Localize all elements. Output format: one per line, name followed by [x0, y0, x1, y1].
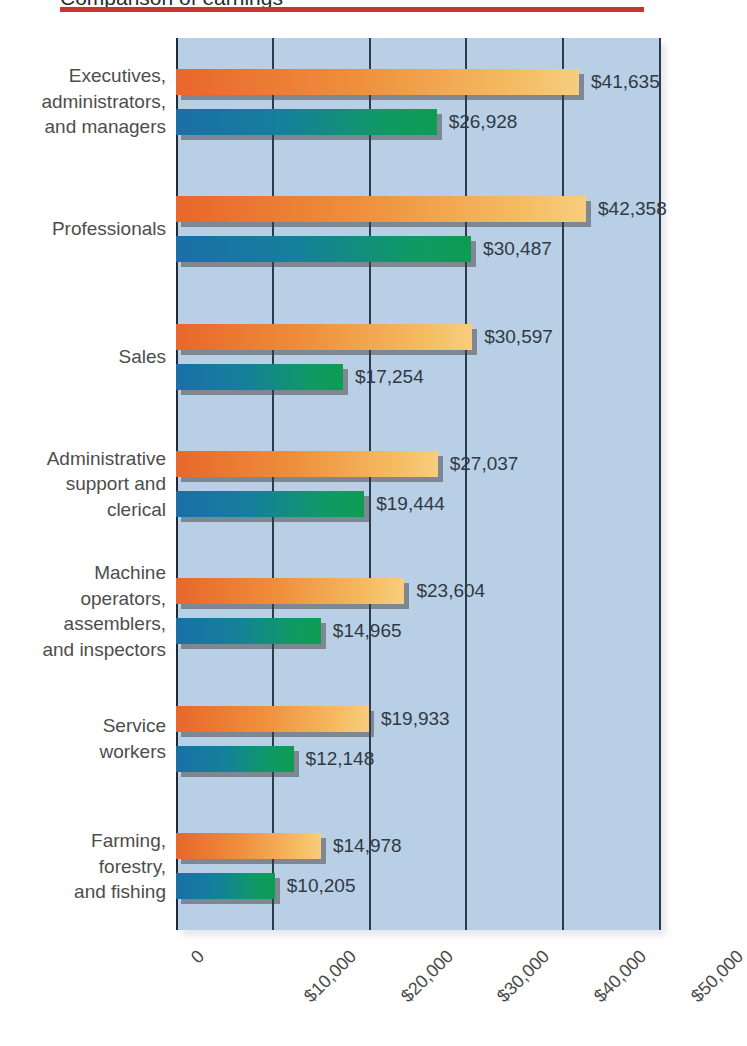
red-divider-rule [60, 7, 644, 12]
category-label: Professionals [0, 216, 166, 242]
bar-female [176, 109, 437, 135]
category-label-line: assemblers, [0, 611, 166, 637]
bar-male [176, 578, 404, 604]
chart-plot-area: $41,635$26,928$42,358$30,487$30,597$17,2… [176, 38, 660, 930]
x-tick-label: $40,000 [590, 946, 651, 1007]
bar-fill [176, 618, 321, 644]
category-label-line: and inspectors [0, 637, 166, 663]
category-label-line: and managers [0, 114, 166, 140]
category-label-line: Farming, [0, 828, 166, 854]
bar-female [176, 236, 471, 262]
bar-fill [176, 109, 437, 135]
bar-value-label: $12,148 [306, 746, 375, 772]
bar-value-label: $26,928 [449, 109, 518, 135]
bar-value-label: $30,597 [484, 324, 553, 350]
bar-male [176, 451, 438, 477]
category-label-line: forestry, [0, 854, 166, 880]
category-label-line: Professionals [0, 216, 166, 242]
bar-female [176, 746, 294, 772]
gridline [369, 38, 371, 930]
x-tick-label: $30,000 [493, 946, 554, 1007]
bar-female [176, 618, 321, 644]
category-label-line: Executives, [0, 63, 166, 89]
bar-fill [176, 364, 343, 390]
bar-fill [176, 746, 294, 772]
x-tick-label: $20,000 [397, 946, 458, 1007]
category-label-line: operators, [0, 586, 166, 612]
bar-value-label: $17,254 [355, 364, 424, 390]
bar-value-label: $23,604 [416, 578, 485, 604]
category-label: Machineoperators,assemblers,and inspecto… [0, 560, 166, 662]
bar-fill [176, 873, 275, 899]
category-label: Administrativesupport andclerical [0, 446, 166, 523]
bar-fill [176, 706, 369, 732]
category-label: Farming,forestry,and fishing [0, 828, 166, 905]
bar-value-label: $41,635 [591, 69, 660, 95]
x-tick-label: $50,000 [687, 946, 747, 1007]
gridline [659, 38, 661, 930]
bar-fill [176, 69, 579, 95]
category-label: Executives,administrators,and managers [0, 63, 166, 140]
bar-female [176, 491, 364, 517]
bar-value-label: $14,978 [333, 833, 402, 859]
category-label-line: Sales [0, 344, 166, 370]
x-tick-label: 0 [187, 946, 209, 968]
bar-value-label: $42,358 [598, 196, 667, 222]
category-label-line: Administrative [0, 446, 166, 472]
category-label-line: administrators, [0, 89, 166, 115]
bar-male [176, 324, 472, 350]
category-label-line: Service [0, 713, 166, 739]
bar-value-label: $27,037 [450, 451, 519, 477]
bar-female [176, 873, 275, 899]
bar-fill [176, 196, 586, 222]
bar-fill [176, 236, 471, 262]
x-tick-label: $10,000 [300, 946, 361, 1007]
bar-fill [176, 833, 321, 859]
category-label-line: Machine [0, 560, 166, 586]
gridline [465, 38, 467, 930]
gridline [562, 38, 564, 930]
bar-male [176, 833, 321, 859]
bar-male [176, 706, 369, 732]
x-axis-tick-labels: 0$10,000$20,000$30,000$40,000$50,000 [0, 930, 694, 1046]
bar-fill [176, 491, 364, 517]
category-label-line: clerical [0, 497, 166, 523]
y-axis-line [176, 38, 178, 930]
category-label-line: workers [0, 739, 166, 765]
bar-value-label: $30,487 [483, 236, 552, 262]
bar-value-label: $14,965 [333, 618, 402, 644]
bar-value-label: $10,205 [287, 873, 356, 899]
bar-value-label: $19,933 [381, 706, 450, 732]
category-label-line: support and [0, 471, 166, 497]
bar-fill [176, 324, 472, 350]
bar-fill [176, 578, 404, 604]
bar-value-label: $19,444 [376, 491, 445, 517]
bar-female [176, 364, 343, 390]
category-label-line: and fishing [0, 879, 166, 905]
category-label: Serviceworkers [0, 713, 166, 764]
gridline [272, 38, 274, 930]
category-label: Sales [0, 344, 166, 370]
bar-male [176, 69, 579, 95]
bar-fill [176, 451, 438, 477]
bar-male [176, 196, 586, 222]
